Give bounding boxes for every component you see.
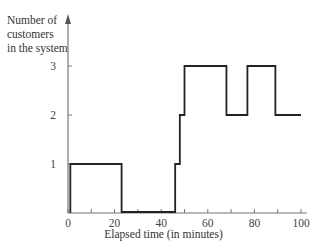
y-tick-label: 3 (50, 60, 56, 72)
y-tick-label: 1 (50, 158, 56, 170)
y-axis-arrow-icon (65, 14, 71, 24)
step-chart: 020406080100123 (0, 0, 327, 251)
y-tick-label: 2 (50, 109, 56, 121)
step-series-line (70, 66, 302, 212)
x-axis-label: Elapsed time (in minutes) (0, 228, 327, 240)
x-axis-label-text: Elapsed time (in minutes) (104, 228, 223, 240)
